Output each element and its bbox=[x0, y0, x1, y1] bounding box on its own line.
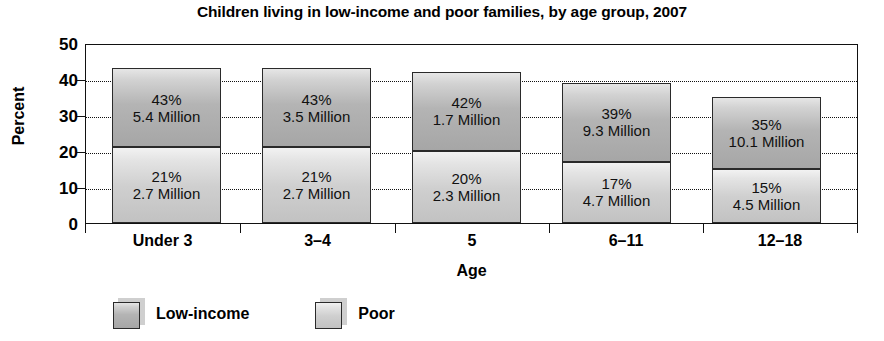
bar-segment-poor-3-4[interactable]: 21% 2.7 Million bbox=[262, 147, 371, 223]
legend-swatch-fill bbox=[315, 302, 342, 329]
bar-label-percent: 39% bbox=[601, 105, 631, 122]
plot-area: 43% 5.4 Million 21% 2.7 Million 43% 3.5 … bbox=[85, 44, 858, 224]
y-tick-label-40: 40 bbox=[40, 72, 78, 89]
y-tick-label-20: 20 bbox=[40, 144, 78, 161]
legend-entry-poor[interactable]: Poor bbox=[315, 298, 394, 329]
x-axis-label-12-18: 12–18 bbox=[703, 232, 857, 250]
bar-label-percent: 17% bbox=[601, 175, 631, 192]
legend-label-poor: Poor bbox=[358, 305, 394, 323]
x-axis-label-under-3: Under 3 bbox=[85, 232, 240, 250]
bar-label-percent: 43% bbox=[151, 91, 181, 108]
x-axis-label-3-4: 3–4 bbox=[240, 232, 395, 250]
legend-swatch-poor-icon bbox=[315, 298, 349, 329]
bar-label-count: 10.1 Million bbox=[729, 133, 805, 150]
chart-legend: Low-income Poor bbox=[113, 298, 395, 329]
bar-segment-low-income-under-3[interactable]: 43% 5.4 Million bbox=[112, 68, 221, 147]
bar-label-percent: 20% bbox=[451, 170, 481, 187]
y-axis-title: Percent bbox=[10, 66, 28, 166]
bar-segment-poor-under-3[interactable]: 21% 2.7 Million bbox=[112, 147, 221, 223]
bar-segment-low-income-12-18[interactable]: 35% 10.1 Million bbox=[712, 97, 821, 169]
bar-segment-low-income-5[interactable]: 42% 1.7 Million bbox=[412, 72, 521, 151]
y-axis-tick-40 bbox=[77, 80, 85, 81]
x-axis-tick-5 bbox=[857, 224, 858, 233]
bar-label-count: 3.5 Million bbox=[283, 108, 351, 125]
bar-segment-low-income-6-11[interactable]: 39% 9.3 Million bbox=[562, 83, 671, 162]
bar-label-percent: 21% bbox=[301, 168, 331, 185]
bar-label-count: 1.7 Million bbox=[433, 111, 501, 128]
y-tick-label-0: 0 bbox=[40, 216, 78, 233]
bar-label-count: 5.4 Million bbox=[133, 108, 201, 125]
bar-group-5[interactable]: 42% 1.7 Million 20% 2.3 Million bbox=[412, 72, 521, 223]
bar-segment-poor-6-11[interactable]: 17% 4.7 Million bbox=[562, 162, 671, 223]
bar-label-count: 2.7 Million bbox=[283, 185, 351, 202]
y-axis-tick-10 bbox=[77, 188, 85, 189]
bar-segment-poor-12-18[interactable]: 15% 4.5 Million bbox=[712, 169, 821, 223]
y-axis-tick-labels: 50 40 30 20 10 0 bbox=[34, 0, 78, 341]
y-axis-tick-20 bbox=[77, 152, 85, 153]
bar-label-percent: 35% bbox=[751, 116, 781, 133]
x-axis-label-5: 5 bbox=[395, 232, 549, 250]
y-tick-label-10: 10 bbox=[40, 180, 78, 197]
chart-figure: Children living in low-income and poor f… bbox=[0, 0, 884, 341]
x-axis-label-6-11: 6–11 bbox=[549, 232, 703, 250]
bar-group-under-3[interactable]: 43% 5.4 Million 21% 2.7 Million bbox=[112, 68, 221, 223]
bar-segment-low-income-3-4[interactable]: 43% 3.5 Million bbox=[262, 68, 371, 147]
y-axis-tick-30 bbox=[77, 116, 85, 117]
x-axis-title: Age bbox=[85, 262, 858, 280]
bar-label-percent: 42% bbox=[451, 94, 481, 111]
bar-group-12-18[interactable]: 35% 10.1 Million 15% 4.5 Million bbox=[712, 97, 821, 223]
legend-label-low-income: Low-income bbox=[156, 305, 249, 323]
y-tick-label-50: 50 bbox=[40, 36, 78, 53]
legend-swatch-fill bbox=[113, 302, 140, 329]
bar-label-count: 4.7 Million bbox=[583, 192, 651, 209]
y-tick-label-30: 30 bbox=[40, 108, 78, 125]
bar-group-6-11[interactable]: 39% 9.3 Million 17% 4.7 Million bbox=[562, 83, 671, 223]
bar-label-percent: 43% bbox=[301, 91, 331, 108]
legend-swatch-low-income-icon bbox=[113, 298, 147, 329]
bar-label-count: 2.7 Million bbox=[133, 185, 201, 202]
bar-label-percent: 21% bbox=[151, 168, 181, 185]
bar-label-percent: 15% bbox=[751, 179, 781, 196]
bar-label-count: 4.5 Million bbox=[733, 196, 801, 213]
bar-group-3-4[interactable]: 43% 3.5 Million 21% 2.7 Million bbox=[262, 68, 371, 223]
bar-segment-poor-5[interactable]: 20% 2.3 Million bbox=[412, 151, 521, 223]
legend-entry-low-income[interactable]: Low-income bbox=[113, 298, 249, 329]
bar-label-count: 9.3 Million bbox=[583, 122, 651, 139]
chart-title: Children living in low-income and poor f… bbox=[0, 3, 884, 21]
bar-label-count: 2.3 Million bbox=[433, 187, 501, 204]
